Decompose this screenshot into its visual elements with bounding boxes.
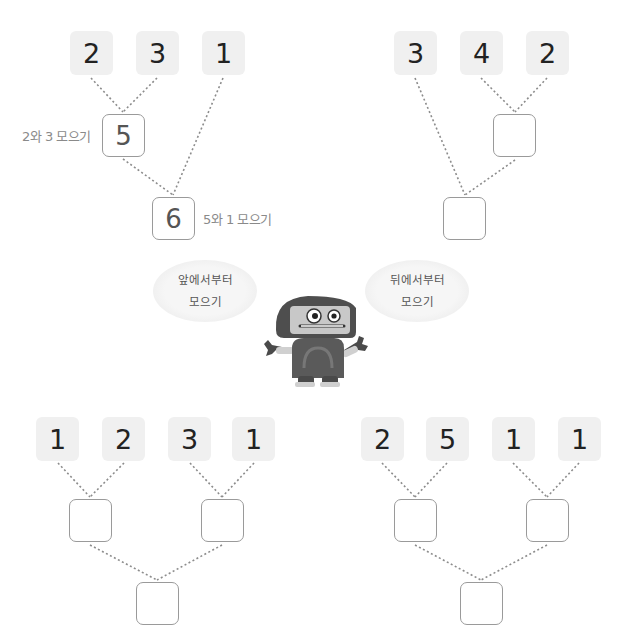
connector-line bbox=[90, 463, 124, 497]
number-tile: 1 bbox=[232, 417, 275, 461]
number-tile: 3 bbox=[168, 417, 211, 461]
answer-box: 6 bbox=[152, 197, 195, 240]
step-label: 2와 3 모으기 bbox=[22, 126, 91, 145]
answer-box[interactable] bbox=[526, 499, 569, 542]
answer-box[interactable] bbox=[493, 114, 536, 157]
connector-line bbox=[515, 78, 547, 112]
hint-text: 뒤에서부터 bbox=[390, 269, 445, 291]
number-tile: 5 bbox=[426, 417, 469, 461]
answer-box[interactable] bbox=[136, 582, 179, 625]
connector-line bbox=[481, 78, 515, 112]
hint-bubble-right: 뒤에서부터 모으기 bbox=[365, 260, 469, 322]
number-tile: 3 bbox=[394, 31, 437, 75]
answer-box[interactable] bbox=[201, 499, 244, 542]
number-tile: 2 bbox=[526, 31, 569, 75]
connector-line bbox=[123, 78, 157, 112]
number-tile: 1 bbox=[492, 417, 535, 461]
connector-line bbox=[513, 463, 547, 497]
answer-box[interactable] bbox=[443, 197, 486, 240]
number-tile: 1 bbox=[202, 31, 245, 75]
number-tile: 1 bbox=[558, 417, 601, 461]
connector-line bbox=[91, 78, 123, 112]
answer-box[interactable] bbox=[69, 499, 112, 542]
connector-line bbox=[157, 545, 222, 580]
number-tile: 4 bbox=[460, 31, 503, 75]
connector-line bbox=[415, 78, 465, 195]
connector-line bbox=[481, 545, 547, 580]
connector-line bbox=[415, 545, 481, 580]
number-tile: 2 bbox=[70, 31, 113, 75]
step-label: 5와 1 모으기 bbox=[203, 209, 272, 228]
hint-text: 모으기 bbox=[189, 291, 222, 313]
connector-line bbox=[547, 463, 579, 497]
robot-mascot-icon bbox=[262, 290, 372, 390]
connector-line bbox=[465, 160, 515, 195]
connector-line bbox=[173, 78, 223, 195]
answer-box: 5 bbox=[102, 114, 145, 157]
connector-line bbox=[58, 463, 90, 497]
hint-text: 모으기 bbox=[401, 291, 434, 313]
number-tile: 1 bbox=[36, 417, 79, 461]
number-tile: 3 bbox=[136, 31, 179, 75]
hint-text: 앞에서부터 bbox=[178, 269, 233, 291]
connector-line bbox=[90, 545, 157, 580]
connector-line bbox=[415, 463, 447, 497]
hint-bubble-left: 앞에서부터 모으기 bbox=[153, 260, 257, 322]
connector-line bbox=[123, 159, 173, 195]
connector-line bbox=[190, 463, 222, 497]
connector-line bbox=[222, 463, 254, 497]
answer-box[interactable] bbox=[460, 582, 503, 625]
answer-box[interactable] bbox=[394, 499, 437, 542]
number-tile: 2 bbox=[361, 417, 404, 461]
number-tile: 2 bbox=[102, 417, 145, 461]
connector-line bbox=[382, 463, 415, 497]
